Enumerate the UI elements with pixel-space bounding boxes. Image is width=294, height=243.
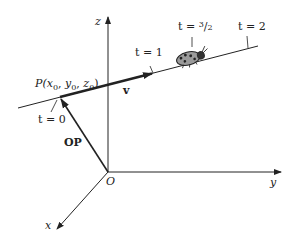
z-axis-label: z <box>94 15 101 28</box>
coordinate-axes: z y x O <box>45 15 281 232</box>
direction-vector-label: v <box>122 84 130 97</box>
y-axis-label: y <box>269 176 277 189</box>
tick-t0 <box>51 100 57 112</box>
tick-t3-2-label: t = 3/2 <box>178 20 213 33</box>
x-axis <box>57 172 108 229</box>
x-axis-label: x <box>45 219 52 232</box>
tick-t1-label: t = 1 <box>135 46 163 59</box>
origin-label: O <box>106 175 115 188</box>
position-vector-label: OP <box>64 136 82 149</box>
line-parametrization-diagram: z y x O v OP P(x0, y0, z0) t = 0 t = 1 t… <box>0 0 294 243</box>
tick-t2 <box>247 36 248 48</box>
tick-t0-label: t = 0 <box>38 113 66 126</box>
point-p-label: P(x0, y0, z0) <box>34 77 99 92</box>
tick-t1 <box>150 66 153 73</box>
tick-t2-label: t = 2 <box>238 20 266 33</box>
